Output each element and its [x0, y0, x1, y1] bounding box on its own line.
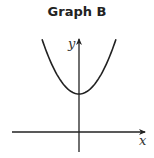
- y-axis-label: y: [67, 36, 76, 51]
- graph-plot-area: y x: [0, 0, 154, 158]
- x-axis-label: x: [139, 133, 147, 148]
